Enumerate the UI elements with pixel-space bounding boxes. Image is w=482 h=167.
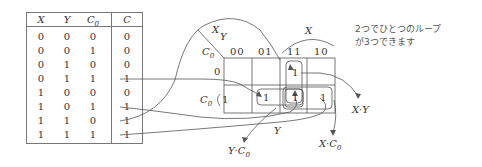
note-line-2: が3つできます [355,36,441,49]
loop-label-xc0: X·C0 [319,138,341,154]
x-brace-label: X [305,25,312,37]
row-header-0: 0 [214,66,220,78]
note-line-1: 2つでひとつのループ [355,23,441,36]
row-header-1: 1 [222,94,228,106]
col-header-00: 00 [230,46,245,58]
col-header-10: 10 [314,46,329,58]
col-header-11: 11 [287,46,302,58]
y-loop-label: Y [274,125,281,137]
explanation-note: 2つでひとつのループ が3つできます [355,23,441,49]
corner-x-label: X [212,24,219,36]
col-header-01: 01 [258,46,273,58]
kmap-cell-0-2: 1 [292,67,298,79]
loop-label-xy: X·Y [352,104,369,116]
kmap-cell-1-2: 1 [292,92,298,104]
kmap-cell-1-1: 1 [263,92,269,104]
corner-y-label: Y [220,31,227,43]
kmap-cell-1-3: 1 [320,92,326,104]
loop-label-yc0: Y·C0 [228,145,250,161]
corner-c0-label: C0 [202,46,214,62]
row-c0-label: C0 [200,94,212,110]
